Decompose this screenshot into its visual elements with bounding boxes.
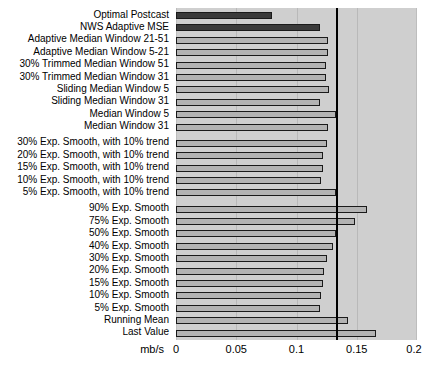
category-label: 30% Trimmed Median Window 51 (19, 59, 169, 69)
bar (176, 280, 323, 287)
bar (176, 86, 329, 93)
bar (176, 37, 328, 44)
category-label: 15% Exp. Smooth (89, 278, 169, 288)
bar (176, 111, 336, 118)
category-label: 10% Exp. Smooth (89, 290, 169, 300)
category-label: 90% Exp. Smooth (89, 203, 169, 213)
bar-chart: Optimal PostcastNWS Adaptive MSEAdaptive… (0, 0, 427, 373)
plot-area (176, 8, 417, 340)
bar (176, 124, 328, 131)
x-tick-0.1: 0.1 (289, 343, 304, 355)
category-label: 30% Exp. Smooth (89, 253, 169, 263)
bar-row (176, 149, 417, 161)
bar-row (176, 59, 417, 71)
bar-row (176, 265, 417, 277)
bar (176, 230, 336, 237)
category-label: 5% Exp. Smooth, with 10% trend (23, 187, 169, 197)
bar-row (176, 174, 417, 186)
bar (176, 255, 327, 262)
bar-row (176, 289, 417, 301)
bar (176, 99, 320, 106)
x-tick-0.2: 0.2 (406, 343, 421, 355)
x-axis-tick-labels: 00.050.10.150.2 (0, 343, 427, 357)
bar (176, 177, 321, 184)
bar-row (176, 34, 417, 46)
bar-row (176, 186, 417, 198)
bar (176, 24, 320, 31)
category-label: Adaptive Median Window 21-51 (28, 34, 169, 44)
category-axis-labels: Optimal PostcastNWS Adaptive MSEAdaptive… (0, 8, 173, 340)
bar-row (176, 277, 417, 289)
bar (176, 12, 272, 19)
bar-row (176, 240, 417, 252)
bar (176, 165, 323, 172)
category-label: Running Mean (104, 315, 169, 325)
category-label: NWS Adaptive MSE (80, 22, 169, 32)
bar-row (176, 9, 417, 21)
bar-row (176, 162, 417, 174)
x-tick-0.15: 0.15 (346, 343, 367, 355)
bar-row (176, 203, 417, 215)
category-label: 5% Exp. Smooth (95, 303, 169, 313)
bar-row (176, 121, 417, 133)
bar-row (176, 327, 417, 339)
bar-row (176, 21, 417, 33)
bar-row (176, 71, 417, 83)
bar (176, 140, 327, 147)
bar (176, 49, 328, 56)
bar (176, 189, 336, 196)
bar-row (176, 252, 417, 264)
bar (176, 243, 333, 250)
category-label: Sliding Median Window 5 (57, 84, 169, 94)
bar-row (176, 215, 417, 227)
category-label: Last Value (122, 327, 169, 337)
bar-row (176, 302, 417, 314)
bar (176, 152, 323, 159)
category-label: Optimal Postcast (93, 10, 169, 20)
bar (176, 305, 320, 312)
bar (176, 206, 367, 213)
category-label: Adaptive Median Window 5-21 (33, 47, 169, 57)
bar (176, 218, 355, 225)
category-label: Median Window 5 (90, 109, 169, 119)
category-label: 75% Exp. Smooth (89, 216, 169, 226)
bar-row (176, 83, 417, 95)
category-label: 50% Exp. Smooth (89, 228, 169, 238)
category-label: 10% Exp. Smooth, with 10% trend (17, 175, 169, 185)
bar (176, 62, 326, 69)
x-tick-0.05: 0.05 (226, 343, 247, 355)
bar-row (176, 96, 417, 108)
reference-line (336, 8, 338, 340)
category-label: 15% Exp. Smooth, with 10% trend (17, 162, 169, 172)
bar (176, 268, 324, 275)
category-label: 20% Exp. Smooth, with 10% trend (17, 150, 169, 160)
category-label: 20% Exp. Smooth (89, 265, 169, 275)
bar (176, 292, 321, 299)
bar-row (176, 227, 417, 239)
category-label: 40% Exp. Smooth (89, 241, 169, 251)
bar-row (176, 46, 417, 58)
bar-row (176, 137, 417, 149)
category-label: Sliding Median Window 31 (51, 96, 169, 106)
bar (176, 330, 376, 337)
category-label: 30% Exp. Smooth, with 10% trend (17, 137, 169, 147)
category-label: Median Window 31 (84, 121, 169, 131)
category-label: 30% Trimmed Median Window 31 (19, 72, 169, 82)
bar (176, 317, 348, 324)
bar (176, 74, 326, 81)
x-tick-0: 0 (173, 343, 179, 355)
bar-row (176, 108, 417, 120)
bar-row (176, 314, 417, 326)
